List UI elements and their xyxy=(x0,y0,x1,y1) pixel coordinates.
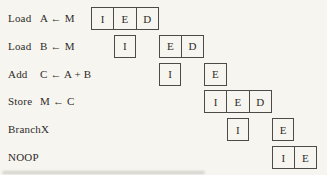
stage-box-i: I xyxy=(92,8,113,29)
stage-box-e: E xyxy=(113,8,135,29)
pipeline-row: BranchXIE xyxy=(0,118,327,141)
instruction-operand-label: A ← M xyxy=(40,7,75,30)
stage-box-group: I xyxy=(227,118,250,141)
scan-artifact-streak xyxy=(2,171,205,174)
stage-box-d: D xyxy=(136,8,158,29)
instruction-op-label: Add xyxy=(8,63,40,86)
stage-box-i: I xyxy=(205,91,226,112)
pipeline-row: LoadB ← MIED xyxy=(0,35,327,58)
stage-box-i: I xyxy=(115,36,136,57)
pipeline-diagram: LoadA ← MIEDLoadB ← MIEDAddC ← A + BIESt… xyxy=(0,0,327,175)
stage-box-group: E xyxy=(204,63,227,86)
instruction-operand-label: M ← C xyxy=(40,90,75,113)
stage-box-e: E xyxy=(226,91,248,112)
stage-box-d: D xyxy=(181,36,203,57)
stage-box-i: I xyxy=(228,119,249,140)
stage-box-i: I xyxy=(160,64,181,85)
stage-box-group: E xyxy=(272,118,295,141)
pipeline-row: StoreM ← CIED xyxy=(0,90,327,113)
stage-box-group: I xyxy=(159,63,182,86)
stage-box-group: IE xyxy=(272,146,317,169)
instruction-operand-label: X xyxy=(41,118,49,141)
stage-box-group: IED xyxy=(204,90,272,113)
pipeline-row: LoadA ← MIED xyxy=(0,7,327,30)
stage-box-e: E xyxy=(205,64,226,85)
stage-box-group: ED xyxy=(159,35,204,58)
stage-box-group: IED xyxy=(91,7,159,30)
stage-box-d: D xyxy=(249,91,271,112)
instruction-op-label: NOOP xyxy=(8,146,40,169)
instruction-operand-label: C ← A + B xyxy=(40,63,91,86)
instruction-operand-label: B ← M xyxy=(40,35,75,58)
instruction-op-label: Load xyxy=(8,35,40,58)
pipeline-row: AddC ← A + BIE xyxy=(0,63,327,86)
instruction-op-label: Branch xyxy=(8,118,41,141)
stage-box-e: E xyxy=(160,36,181,57)
stage-box-e: E xyxy=(273,119,294,140)
stage-box-i: I xyxy=(273,147,294,168)
instruction-op-label: Store xyxy=(8,90,40,113)
stage-box-group: I xyxy=(114,35,137,58)
stage-box-e: E xyxy=(294,147,316,168)
pipeline-row: NOOPIE xyxy=(0,146,327,169)
instruction-op-label: Load xyxy=(8,7,40,30)
